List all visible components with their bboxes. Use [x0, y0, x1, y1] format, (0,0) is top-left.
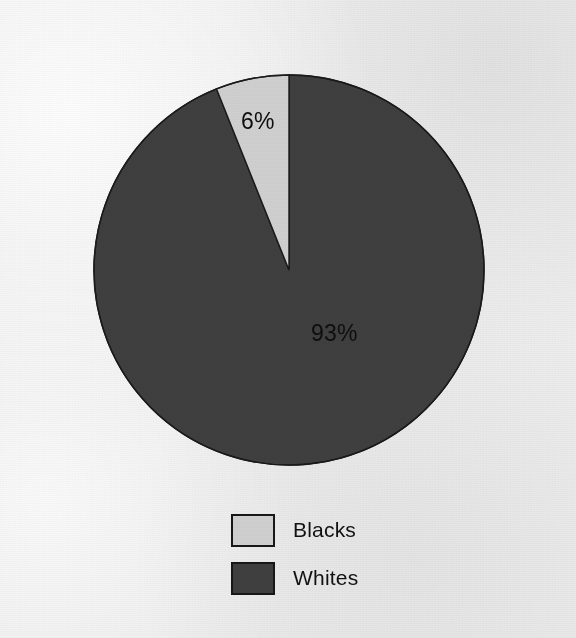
legend-item-blacks[interactable]: Blacks — [231, 506, 358, 554]
slice-value-label-blacks: 6% — [241, 108, 275, 135]
legend-swatch-blacks — [231, 514, 275, 547]
pie-chart: 6% 93% Blacks Whites — [0, 0, 576, 638]
legend-swatch-whites — [231, 562, 275, 595]
slice-value-label-whites: 93% — [311, 320, 358, 347]
scanned-page: 6% 93% Blacks Whites — [0, 0, 576, 638]
legend-label-blacks: Blacks — [293, 518, 356, 542]
legend-label-whites: Whites — [293, 566, 358, 590]
chart-legend: Blacks Whites — [231, 506, 358, 602]
legend-item-whites[interactable]: Whites — [231, 554, 358, 602]
